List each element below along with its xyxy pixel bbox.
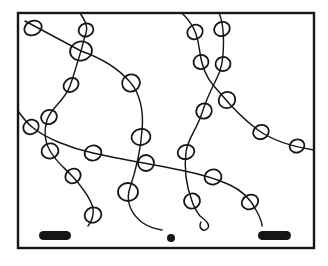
figure-stage [0, 0, 328, 266]
scale-bar-right [258, 231, 291, 240]
reference-dot [167, 234, 175, 242]
bead-14 [193, 100, 215, 122]
scale-bar-left [39, 231, 71, 240]
strand-middle-s-curve [185, 13, 223, 230]
bead-12 [212, 19, 232, 38]
beads-on-string-diagram [0, 0, 328, 266]
bead-26 [239, 192, 260, 212]
